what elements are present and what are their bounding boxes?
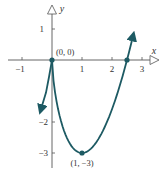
curve [41, 36, 133, 153]
x-tick-label: −1 [15, 64, 25, 74]
x-axis-title: x [151, 45, 157, 56]
curve-left-branch [41, 60, 52, 110]
x-tick-label: 3 [140, 64, 145, 74]
point-origin [49, 57, 54, 62]
x-axis-arrow-icon [150, 56, 159, 65]
y-tick-label: −2 [38, 117, 48, 127]
y-tick-label: −3 [38, 148, 48, 158]
point-x-intercept [124, 57, 129, 62]
y-axis: 1 −2 −3 y [38, 3, 64, 168]
y-axis-title: y [59, 3, 65, 14]
x-axis: −1 1 2 3 x [8, 45, 159, 74]
function-graph: −1 1 2 3 x 1 −2 −3 y (0, 0) (1, −3) [0, 0, 162, 171]
point-label-minimum: (1, −3) [70, 158, 93, 168]
x-tick-label: 1 [80, 64, 85, 74]
point-minimum [79, 150, 84, 155]
x-tick-label: 2 [110, 64, 115, 74]
y-axis-arrow-icon [48, 5, 57, 14]
y-tick-label: 1 [40, 24, 45, 34]
point-label-origin: (0, 0) [56, 47, 75, 57]
